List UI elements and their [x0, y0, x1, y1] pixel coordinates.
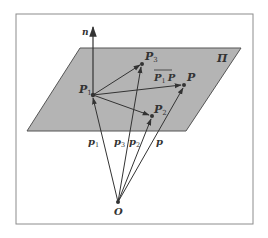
point-origin	[116, 200, 120, 204]
label-origin: O	[114, 206, 123, 217]
plane-vector-diagram: Π n P1 P3 P P2 P1P p1 p3 p2 p O	[0, 0, 268, 238]
point-p3	[140, 62, 144, 66]
label-p: P	[186, 71, 196, 84]
normal-label: n	[82, 27, 89, 37]
label-vec-p: p	[156, 136, 163, 147]
point-p	[182, 83, 186, 87]
plane-label: Π	[216, 52, 228, 65]
